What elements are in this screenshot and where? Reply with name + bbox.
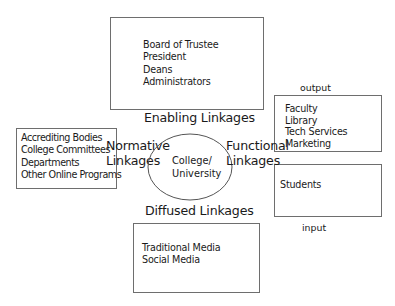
functional-linkages-title: Functional Linkages — [226, 139, 289, 168]
output-label: output — [300, 82, 331, 93]
center-label: College/ University — [172, 154, 221, 180]
output-item: Library — [285, 115, 381, 127]
center-label-line: College/ — [172, 154, 221, 167]
functional-title-line: Functional — [226, 139, 289, 154]
input-item: Students — [280, 179, 381, 191]
diffused-box: Traditional Media Social Media — [133, 223, 260, 293]
functional-title-line: Linkages — [226, 154, 289, 169]
input-box: Students — [274, 164, 382, 217]
input-label: input — [302, 222, 326, 233]
output-item: Marketing — [285, 138, 381, 150]
diffused-linkages-title: Diffused Linkages — [145, 204, 254, 219]
output-box: Faculty Library Tech Services Marketing — [274, 95, 382, 152]
center-label-line: University — [172, 167, 221, 180]
output-item: Faculty — [285, 103, 381, 115]
diffused-item: Social Media — [142, 254, 259, 266]
diffused-item: Traditional Media — [142, 242, 259, 254]
output-item: Tech Services — [285, 126, 381, 138]
